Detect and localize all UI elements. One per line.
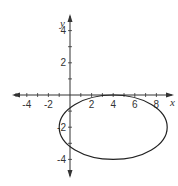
y-arrow-up-icon — [68, 14, 73, 22]
y-tick-label: 2 — [60, 57, 66, 68]
x-tick-label: -2 — [44, 99, 53, 110]
chart: -4-2246842-2-4 x y — [0, 0, 178, 186]
x-axis-label: x — [169, 96, 175, 108]
x-tick-label: 6 — [132, 99, 138, 110]
x-tick-label: -4 — [22, 99, 31, 110]
y-arrow-down-icon — [68, 170, 73, 178]
y-tick-label: -4 — [57, 154, 66, 165]
x-tick-label: 4 — [110, 99, 116, 110]
y-tick-label: -2 — [57, 122, 66, 133]
y-axis-label: y — [59, 17, 65, 29]
axes — [12, 14, 174, 178]
x-tick-label: 2 — [89, 99, 95, 110]
